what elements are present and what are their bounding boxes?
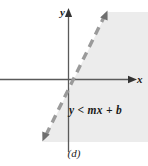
graph-canvas [0, 0, 148, 166]
y-axis-label: y [60, 7, 65, 18]
x-axis-label: x [137, 74, 143, 85]
y-axis-arrowhead [65, 8, 72, 17]
figure-caption: (d) [0, 148, 148, 159]
inequality-annotation: y < mx + b [69, 105, 122, 117]
inequality-graph-figure: y x y < mx + b (d) [0, 0, 148, 166]
